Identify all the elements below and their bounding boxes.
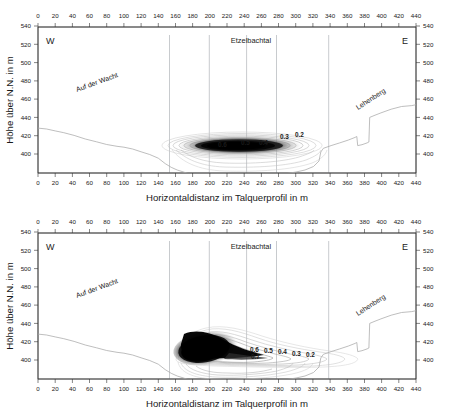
svg-text:220: 220 <box>222 385 233 392</box>
contour-label-0-6: 0.6 <box>250 346 259 353</box>
svg-text:540: 540 <box>21 22 32 29</box>
svg-text:420: 420 <box>423 338 434 345</box>
svg-text:140: 140 <box>153 218 164 225</box>
svg-text:300: 300 <box>291 179 302 186</box>
y-axis-right: 400 420 440 460 480 500 520 540 <box>416 228 434 379</box>
svg-text:400: 400 <box>376 12 387 19</box>
corner-label-east-top: E <box>402 36 408 46</box>
svg-text:440: 440 <box>21 320 32 327</box>
svg-text:40: 40 <box>69 179 76 186</box>
svg-text:100: 100 <box>119 12 130 19</box>
contour-label-0-3: 0.3 <box>292 350 301 357</box>
svg-text:300: 300 <box>291 12 302 19</box>
svg-text:500: 500 <box>423 59 434 66</box>
svg-text:380: 380 <box>359 218 370 225</box>
x-axis-top: 0 20 40 60 80 100 120 140 160 180 200 22… <box>36 12 421 27</box>
svg-text:140: 140 <box>153 385 164 392</box>
svg-text:240: 240 <box>239 179 250 186</box>
svg-text:160: 160 <box>170 218 181 225</box>
svg-text:520: 520 <box>21 247 32 254</box>
svg-text:80: 80 <box>103 179 110 186</box>
svg-text:140: 140 <box>153 12 164 19</box>
y-tick-labels-left: 400 420 440 460 480 500 520 540 <box>21 22 32 157</box>
svg-text:540: 540 <box>423 228 434 235</box>
svg-text:400: 400 <box>21 150 32 157</box>
svg-text:180: 180 <box>187 12 198 19</box>
svg-text:340: 340 <box>325 12 336 19</box>
svg-text:380: 380 <box>359 12 370 19</box>
svg-text:440: 440 <box>411 218 422 225</box>
x-axis-bottom: 0 20 40 60 80 100 120 140 160 180 200 22… <box>36 379 421 409</box>
contour-label-0-7: 0.7 <box>251 353 260 360</box>
svg-text:360: 360 <box>342 218 353 225</box>
svg-text:300: 300 <box>291 385 302 392</box>
svg-text:20: 20 <box>52 12 59 19</box>
svg-text:460: 460 <box>423 95 434 102</box>
svg-text:0: 0 <box>36 385 40 392</box>
svg-text:380: 380 <box>359 385 370 392</box>
svg-text:220: 220 <box>222 179 233 186</box>
contour-label-0-6: 0.6 <box>218 141 227 148</box>
x-axis-title: Horizontaldistanz im Talquerprofil in m <box>146 398 308 409</box>
svg-text:500: 500 <box>423 265 434 272</box>
svg-text:440: 440 <box>411 179 422 186</box>
svg-text:440: 440 <box>423 114 434 121</box>
svg-text:400: 400 <box>423 150 434 157</box>
y-axis-title: Höhe über N.N. in m <box>4 56 15 143</box>
svg-text:120: 120 <box>136 12 147 19</box>
contour-label-0-2: 0.2 <box>306 351 315 358</box>
x-axis-title: Horizontaldistanz im Talquerprofil in m <box>146 192 308 203</box>
contour-label-0-3: 0.3 <box>280 133 289 140</box>
svg-text:480: 480 <box>423 77 434 84</box>
svg-text:520: 520 <box>423 41 434 48</box>
svg-text:400: 400 <box>376 385 387 392</box>
svg-text:520: 520 <box>423 247 434 254</box>
svg-text:60: 60 <box>86 385 93 392</box>
svg-text:340: 340 <box>325 179 336 186</box>
svg-text:0: 0 <box>36 218 40 225</box>
svg-text:340: 340 <box>325 385 336 392</box>
svg-text:200: 200 <box>205 12 216 19</box>
svg-text:240: 240 <box>239 12 250 19</box>
svg-text:140: 140 <box>153 179 164 186</box>
svg-text:520: 520 <box>21 41 32 48</box>
svg-text:360: 360 <box>342 12 353 19</box>
svg-text:320: 320 <box>308 385 319 392</box>
svg-text:120: 120 <box>136 385 147 392</box>
svg-text:180: 180 <box>187 385 198 392</box>
svg-text:80: 80 <box>103 12 110 19</box>
svg-text:20: 20 <box>52 385 59 392</box>
svg-text:100: 100 <box>119 179 130 186</box>
svg-text:400: 400 <box>423 356 434 363</box>
svg-text:280: 280 <box>273 179 284 186</box>
x-axis-bottom: 0 20 40 60 80 100 120 140 160 180 200 22… <box>36 173 421 203</box>
corner-label-west-bottom: W <box>46 242 55 252</box>
svg-text:260: 260 <box>256 12 267 19</box>
svg-text:0: 0 <box>36 179 40 186</box>
contour-label-0-5: 0.5 <box>264 347 273 354</box>
svg-text:200: 200 <box>205 218 216 225</box>
svg-text:500: 500 <box>21 59 32 66</box>
contour-label-0-4: 0.4 <box>259 139 268 146</box>
svg-text:480: 480 <box>423 283 434 290</box>
svg-text:420: 420 <box>423 132 434 139</box>
svg-text:480: 480 <box>21 77 32 84</box>
y-axis-left: 400 420 440 460 480 500 520 540 Höhe übe… <box>4 228 38 379</box>
svg-text:460: 460 <box>21 301 32 308</box>
svg-text:200: 200 <box>205 179 216 186</box>
svg-text:60: 60 <box>86 179 93 186</box>
svg-text:540: 540 <box>423 22 434 29</box>
svg-text:420: 420 <box>394 12 405 19</box>
svg-text:100: 100 <box>119 218 130 225</box>
x-axis-top: 0 20 40 60 80 100 120 140 160 180 200 22… <box>36 218 421 233</box>
svg-text:240: 240 <box>239 218 250 225</box>
svg-text:160: 160 <box>170 12 181 19</box>
svg-text:160: 160 <box>170 385 181 392</box>
svg-text:280: 280 <box>273 12 284 19</box>
panel-bottom: 0 20 40 60 80 100 120 140 160 180 200 22… <box>0 206 454 412</box>
svg-text:360: 360 <box>342 385 353 392</box>
svg-text:200: 200 <box>205 385 216 392</box>
valley-label-top: Etzelbachtal <box>231 36 272 45</box>
svg-text:260: 260 <box>256 179 267 186</box>
svg-text:80: 80 <box>103 385 110 392</box>
